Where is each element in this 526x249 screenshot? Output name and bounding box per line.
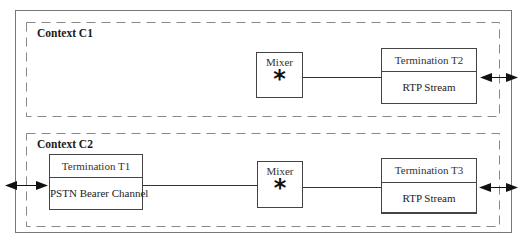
- asterisk-icon: *: [258, 176, 302, 200]
- context-c1-label: Context C1: [37, 27, 93, 39]
- termination-t1: Termination T1 PSTN Bearer Channel: [49, 154, 143, 210]
- termination-t2-title: Termination T2: [382, 49, 476, 72]
- asterisk-icon: *: [257, 67, 302, 91]
- termination-t2: Termination T2 RTP Stream: [381, 48, 477, 104]
- context-c2-label: Context C2: [37, 138, 93, 150]
- termination-t1-title: Termination T1: [50, 155, 142, 178]
- termination-t3-body: RTP Stream: [382, 183, 476, 212]
- termination-t1-body: PSTN Bearer Channel: [50, 178, 142, 209]
- mixer-c2: Mixer *: [257, 161, 303, 208]
- termination-t3-title: Termination T3: [382, 159, 476, 183]
- termination-t3: Termination T3 RTP Stream: [381, 158, 477, 214]
- mixer-c1: Mixer *: [256, 52, 303, 98]
- termination-t2-body: RTP Stream: [382, 72, 476, 103]
